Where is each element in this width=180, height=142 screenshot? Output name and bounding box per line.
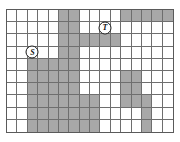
free-cell	[7, 22, 17, 34]
free-cell	[7, 108, 17, 120]
free-cell	[163, 22, 173, 34]
blocked-cell	[69, 47, 79, 59]
free-cell	[142, 47, 152, 59]
free-cell	[111, 71, 121, 83]
free-cell	[80, 83, 90, 95]
free-cell	[152, 83, 162, 95]
free-cell	[111, 22, 121, 34]
blocked-cell	[90, 95, 100, 107]
grid-cell-container: TS	[7, 10, 173, 132]
free-cell	[132, 120, 142, 132]
blocked-cell	[38, 120, 48, 132]
blocked-cell	[49, 71, 59, 83]
blocked-cell	[132, 95, 142, 107]
free-cell	[49, 47, 59, 59]
blocked-cell	[59, 10, 69, 22]
blocked-cell	[152, 10, 162, 22]
free-cell	[17, 59, 27, 71]
blocked-cell	[59, 47, 69, 59]
blocked-cell	[59, 22, 69, 34]
free-cell	[7, 10, 17, 22]
free-cell	[111, 47, 121, 59]
free-cell	[163, 59, 173, 71]
blocked-cell	[38, 83, 48, 95]
blocked-cell	[80, 95, 90, 107]
blocked-cell	[59, 71, 69, 83]
free-cell	[152, 59, 162, 71]
blocked-cell	[121, 71, 131, 83]
blocked-cell	[28, 71, 38, 83]
free-cell	[100, 59, 110, 71]
blocked-cell	[59, 120, 69, 132]
grid-frame: TS	[6, 9, 174, 133]
free-cell	[152, 71, 162, 83]
free-cell	[121, 47, 131, 59]
free-cell	[152, 95, 162, 107]
free-cell	[152, 47, 162, 59]
free-cell	[28, 22, 38, 34]
blocked-cell	[28, 83, 38, 95]
free-cell	[17, 95, 27, 107]
free-cell	[163, 47, 173, 59]
free-cell	[7, 95, 17, 107]
blocked-cell	[142, 10, 152, 22]
blocked-cell	[132, 71, 142, 83]
free-cell	[80, 71, 90, 83]
blocked-cell	[69, 71, 79, 83]
blocked-cell	[163, 10, 173, 22]
free-cell	[80, 47, 90, 59]
free-cell	[17, 10, 27, 22]
free-cell	[100, 71, 110, 83]
free-cell	[100, 83, 110, 95]
blocked-cell	[69, 22, 79, 34]
free-cell	[111, 10, 121, 22]
free-cell	[163, 120, 173, 132]
free-cell	[49, 34, 59, 46]
free-cell	[7, 34, 17, 46]
blocked-cell	[69, 95, 79, 107]
free-cell	[90, 47, 100, 59]
free-cell	[49, 10, 59, 22]
free-cell	[111, 59, 121, 71]
free-cell	[7, 59, 17, 71]
blocked-cell	[28, 95, 38, 107]
free-cell	[80, 10, 90, 22]
free-cell	[121, 108, 131, 120]
free-cell	[152, 34, 162, 46]
free-cell	[17, 83, 27, 95]
blocked-cell	[59, 59, 69, 71]
blocked-cell	[100, 34, 110, 46]
free-cell	[111, 120, 121, 132]
blocked-cell	[132, 10, 142, 22]
free-cell	[17, 108, 27, 120]
free-cell	[100, 120, 110, 132]
blocked-cell	[59, 34, 69, 46]
blocked-cell	[80, 120, 90, 132]
blocked-cell	[121, 83, 131, 95]
free-cell	[90, 10, 100, 22]
free-cell	[7, 47, 17, 59]
free-cell	[38, 22, 48, 34]
free-cell	[163, 83, 173, 95]
blocked-cell	[69, 108, 79, 120]
free-cell	[121, 59, 131, 71]
blocked-cell	[59, 95, 69, 107]
blocked-cell	[69, 10, 79, 22]
free-cell	[80, 22, 90, 34]
blocked-cell	[121, 95, 131, 107]
free-cell	[28, 10, 38, 22]
blocked-cell	[69, 59, 79, 71]
free-cell	[132, 34, 142, 46]
free-cell	[142, 71, 152, 83]
free-cell	[132, 22, 142, 34]
free-cell	[142, 59, 152, 71]
blocked-cell	[49, 95, 59, 107]
free-cell: S	[28, 47, 38, 59]
blocked-cell	[142, 120, 152, 132]
free-cell	[90, 83, 100, 95]
free-cell	[152, 108, 162, 120]
free-cell	[132, 59, 142, 71]
free-cell	[17, 71, 27, 83]
free-cell	[111, 108, 121, 120]
free-cell	[7, 120, 17, 132]
